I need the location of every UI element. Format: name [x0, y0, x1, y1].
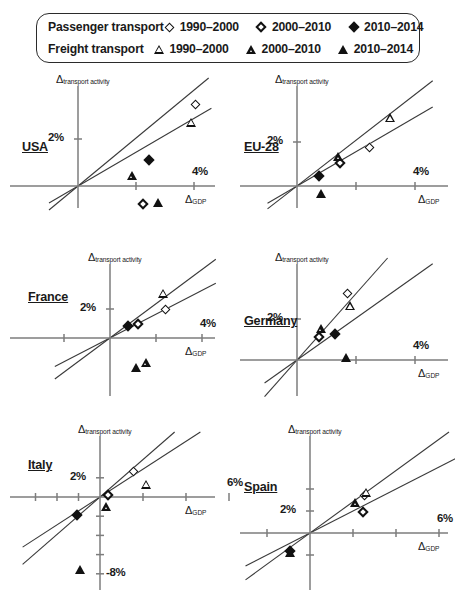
diamond-solid-icon: [144, 155, 155, 166]
x-tick-label: 4%: [192, 165, 208, 177]
diamond-open-icon: [160, 304, 171, 315]
legend-item-freight-2010-2014: 2010–2014: [338, 42, 413, 56]
triangle-solid-icon: [315, 188, 326, 199]
diamond-open-icon: [190, 99, 201, 110]
triangle-half-icon: [350, 497, 361, 508]
y-tick-label: 2%: [48, 131, 64, 143]
diamond-solid-icon: [348, 22, 359, 33]
legend-item-freight-1990-2000: 1990–2000: [153, 42, 228, 56]
triangle-solid-icon: [284, 547, 295, 558]
chart-panel-eu-28: EU-28Δtransport activityΔGDP4%2%: [240, 78, 455, 210]
legend-row-freight: Freight transport 1990–2000 2000–2010 20…: [48, 38, 413, 60]
y-tick-label: 2%: [80, 301, 96, 313]
y-tick-label: 2%: [267, 311, 283, 323]
chart-panel-france: FranceΔtransport activityΔGDP4%2%: [10, 258, 222, 398]
triangle-open-icon: [141, 479, 152, 490]
panel-title: Italy: [28, 458, 52, 472]
legend-row-passenger: Passenger transport 1990–2000 2000–2010 …: [48, 16, 413, 38]
x-axis-label: ΔGDP: [418, 193, 439, 205]
diamond-open-icon: [364, 142, 375, 153]
diamond-half-icon: [256, 22, 267, 33]
legend-item-passenger-2000-2010: 2000–2010: [256, 20, 331, 34]
triangle-solid-icon: [340, 352, 351, 363]
diamond-half-icon: [357, 506, 368, 517]
diamond-solid-icon: [123, 320, 134, 331]
panel-title: France: [28, 290, 68, 304]
triangle-solid-icon: [131, 362, 142, 373]
x-axis-label: ΔGDP: [185, 504, 206, 516]
x-axis-label: ΔGDP: [418, 540, 439, 552]
diamond-open-icon: [128, 466, 139, 477]
triangle-half-icon: [101, 501, 112, 512]
chart-panel-spain: SpainΔtransport activityΔGDP6%2%: [240, 432, 455, 592]
diamond-open-icon: [342, 288, 353, 299]
y-tick-label: 2%: [267, 134, 283, 146]
x-tick-label: 4%: [413, 165, 429, 177]
y-axis-label: Δtransport activity: [288, 423, 342, 435]
triangle-open-icon: [345, 300, 356, 311]
regression-line-steep: [49, 78, 209, 210]
legend-category-label: Freight transport: [48, 42, 153, 56]
triangle-open-icon: [186, 117, 197, 128]
y-tick-label: 2%: [280, 503, 296, 515]
y-axis-label: Δtransport activity: [88, 251, 142, 263]
chart-panel-italy: ItalyΔtransport activityΔGDP6%2%-8%: [10, 432, 222, 592]
legend-item-label: 2010–2014: [364, 20, 423, 34]
triangle-solid-icon: [74, 564, 85, 575]
diamond-solid-icon: [314, 171, 325, 182]
x-tick-label: 6%: [437, 512, 453, 524]
legend-item-label: 2010–2014: [354, 42, 413, 56]
legend-category-label: Passenger transport: [48, 20, 164, 34]
legend-item-label: 1990–2000: [180, 20, 239, 34]
x-tick-label: 4%: [413, 339, 429, 351]
triangle-half-icon: [246, 44, 257, 55]
triangle-open-icon: [153, 44, 164, 55]
triangle-solid-icon: [152, 197, 163, 208]
chart-panel-usa: USAΔtransport activityΔGDP4%2%: [10, 78, 222, 210]
triangle-half-icon: [333, 151, 344, 162]
triangle-open-icon: [360, 487, 371, 498]
diamond-solid-icon: [330, 329, 341, 340]
triangle-half-icon: [126, 170, 137, 181]
panel-title: Spain: [244, 480, 277, 494]
regression-line-shallow: [268, 107, 433, 203]
diamond-solid-icon: [72, 509, 83, 520]
triangle-half-icon: [315, 323, 326, 334]
y-axis-label: Δtransport activity: [56, 73, 110, 85]
x-axis-label: ΔGDP: [185, 193, 206, 205]
regression-line-steep: [246, 432, 450, 580]
x-axis-label: ΔGDP: [418, 367, 439, 379]
y-tick-label: 2%: [70, 470, 86, 482]
diamond-half-icon: [138, 198, 149, 209]
triangle-solid-icon: [338, 44, 349, 55]
legend-box: Passenger transport 1990–2000 2000–2010 …: [36, 13, 420, 63]
chart-canvas: [240, 432, 455, 592]
chart-canvas: [10, 258, 222, 398]
legend-item-passenger-1990-2000: 1990–2000: [164, 20, 239, 34]
diamond-half-icon: [102, 489, 113, 500]
y-axis-label: Δtransport activity: [275, 73, 329, 85]
panel-title: USA: [22, 140, 48, 154]
triangle-open-icon: [384, 112, 395, 123]
triangle-open-icon: [157, 288, 168, 299]
legend-item-passenger-2010-2014: 2010–2014: [348, 20, 423, 34]
x-axis-label: ΔGDP: [185, 345, 206, 357]
y-axis-label: Δtransport activity: [275, 251, 329, 263]
diamond-open-icon: [164, 22, 175, 33]
y-tick-label: -8%: [106, 566, 125, 578]
legend-item-label: 2000–2010: [262, 42, 321, 56]
y-axis-label: Δtransport activity: [78, 423, 132, 435]
legend-item-freight-2000-2010: 2000–2010: [246, 42, 321, 56]
x-tick-label: 4%: [200, 317, 216, 329]
regression-line-steep: [268, 81, 433, 209]
chart-panel-germany: GermanyΔtransport activityΔGDP4%2%: [240, 258, 455, 398]
legend-item-label: 2000–2010: [272, 20, 331, 34]
legend-item-label: 1990–2000: [169, 42, 228, 56]
